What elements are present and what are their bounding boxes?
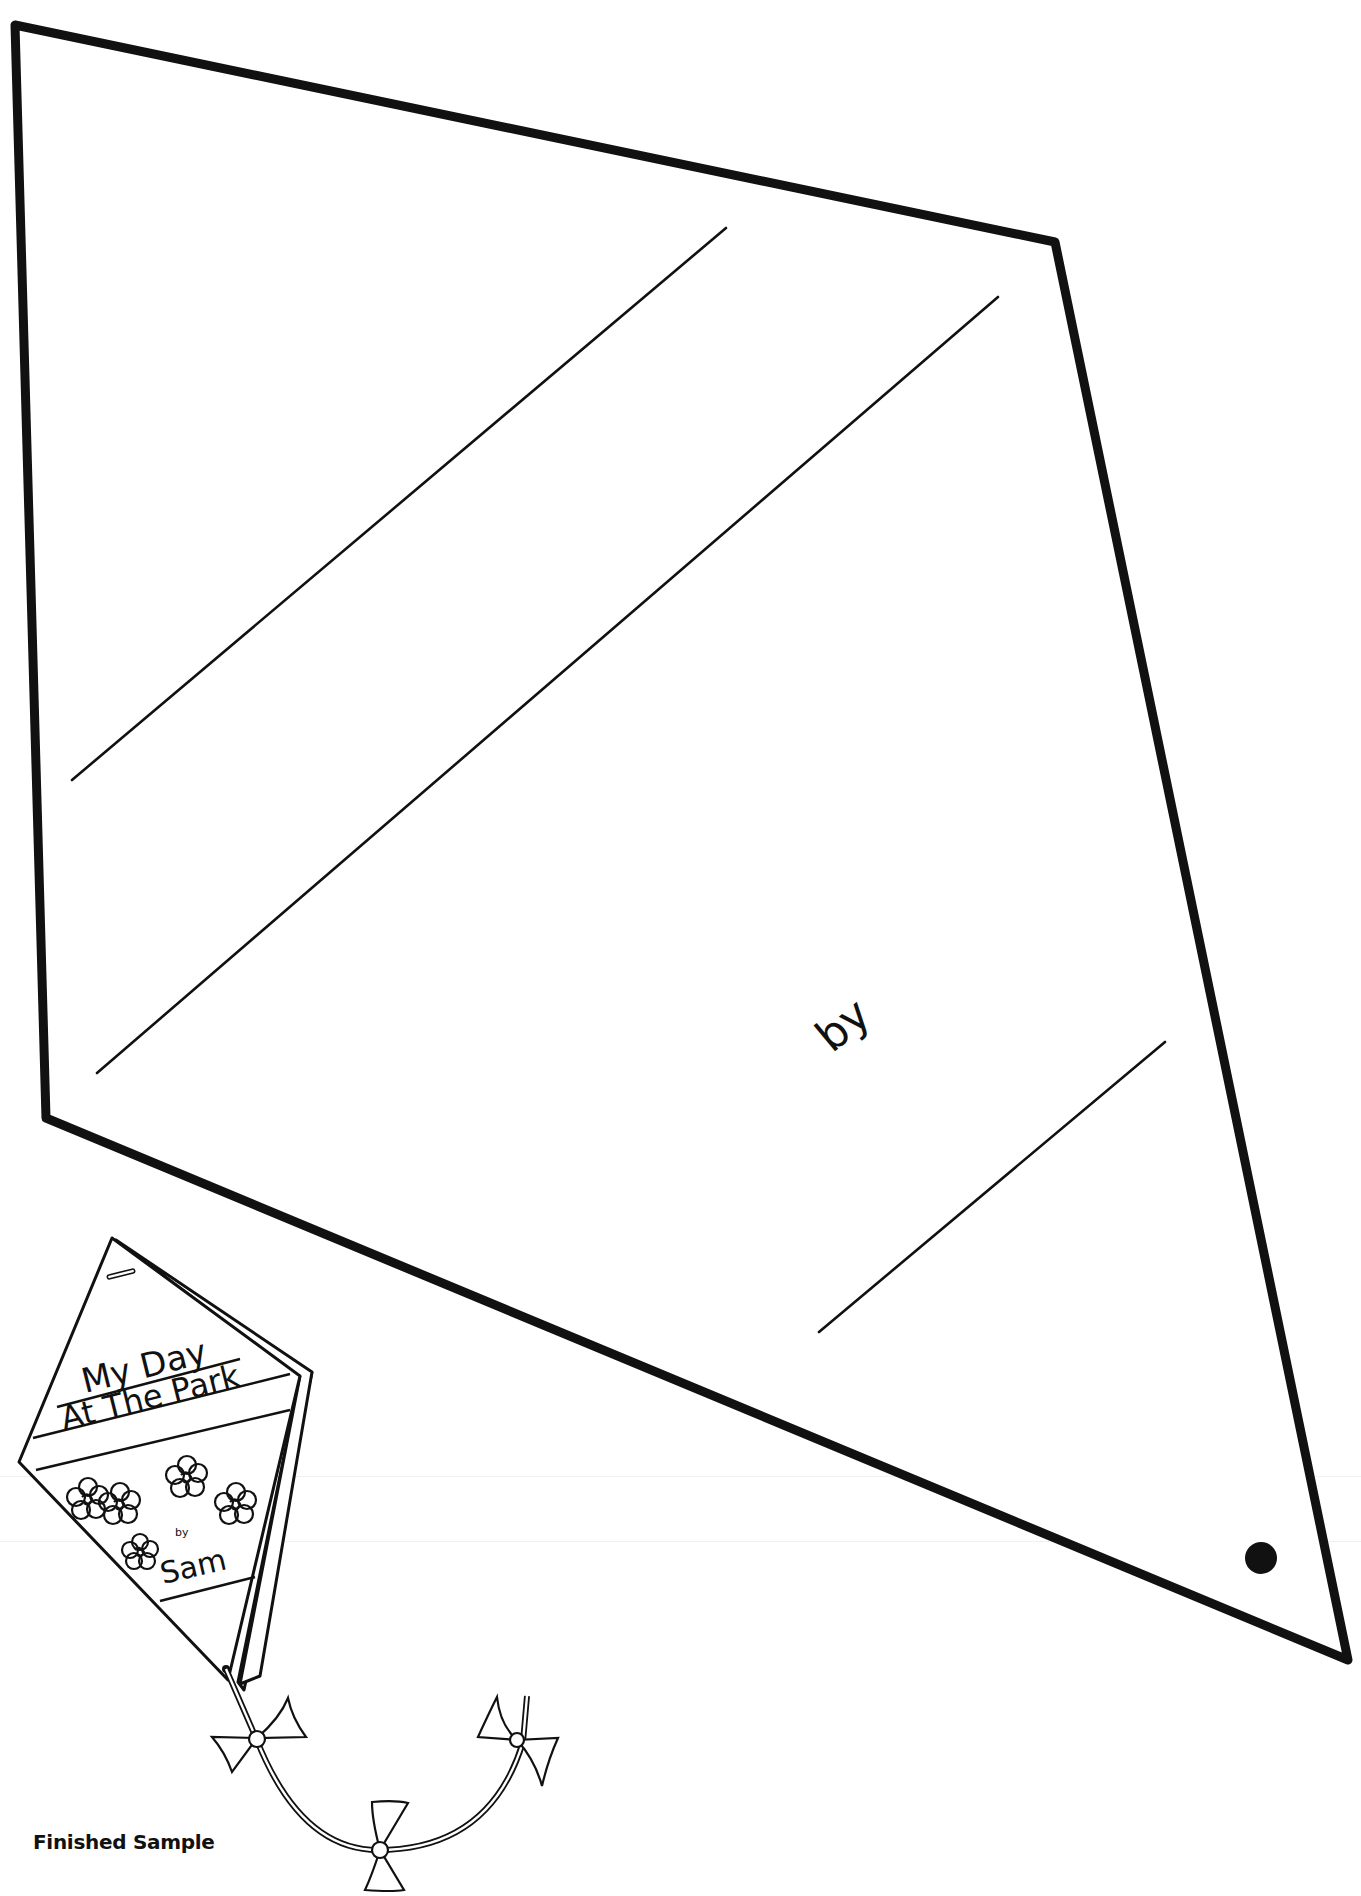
kite-book-cover-template-page: by My Day At The Park (0, 0, 1361, 1896)
tail-bow-1 (212, 1698, 306, 1772)
finished-sample-caption: Finished Sample (33, 1830, 215, 1854)
kite-artwork: by My Day At The Park (0, 0, 1361, 1896)
finished-sample-kite: My Day At The Park (19, 1238, 558, 1891)
sample-by-label: by (175, 1526, 189, 1539)
tail-bow-3 (478, 1697, 558, 1786)
punch-hole-dot (1245, 1542, 1277, 1574)
